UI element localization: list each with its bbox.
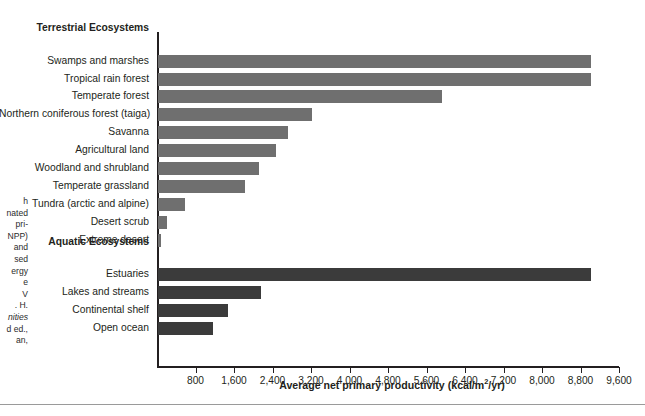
x-axis-tick — [542, 367, 543, 373]
bar — [158, 234, 161, 247]
bar — [158, 73, 591, 86]
x-axis-title: Average net primary productivity (kcal/m… — [157, 377, 627, 391]
bar — [158, 144, 276, 157]
bar — [158, 180, 245, 193]
plot-area: 8001,6002,4003,2004,0004,8005,6006,4007,… — [157, 16, 645, 350]
footer-divider — [0, 404, 645, 405]
bar — [158, 286, 261, 299]
bar — [158, 126, 288, 139]
x-axis-tick — [196, 367, 197, 373]
axis-title-superscript: 2 — [484, 377, 488, 386]
x-axis-tick — [465, 367, 466, 373]
x-axis-tick — [619, 367, 620, 373]
group-heading: Aquatic Ecosystems — [0, 236, 149, 248]
category-label: Savanna — [0, 126, 149, 138]
category-label: Tropical rain forest — [0, 73, 149, 85]
category-label: Agricultural land — [0, 144, 149, 156]
category-label: Temperate grassland — [0, 180, 149, 192]
group-heading: Terrestrial Ecosystems — [0, 22, 149, 34]
x-axis-tick — [504, 367, 505, 373]
x-axis-tick — [581, 367, 582, 373]
category-label-column: Terrestrial EcosystemsSwamps and marshes… — [0, 0, 153, 352]
x-axis-tick — [273, 367, 274, 373]
bar — [158, 216, 167, 229]
category-label: Swamps and marshes — [0, 55, 149, 67]
category-label: Continental shelf — [0, 304, 149, 316]
bar — [158, 55, 591, 68]
category-label: Woodland and shrubland — [0, 162, 149, 174]
category-label: Temperate forest — [0, 90, 149, 102]
bar — [158, 322, 213, 335]
x-axis-tick — [388, 367, 389, 373]
bar — [158, 162, 259, 175]
x-axis-tick — [311, 367, 312, 373]
x-axis-tick — [427, 367, 428, 373]
bar — [158, 108, 312, 121]
x-axis-tick — [350, 367, 351, 373]
bar — [158, 90, 442, 103]
bar — [158, 304, 228, 317]
figure-root: hnatedpri-NPP)andsedergyeV. H.nitiesd ed… — [0, 0, 645, 416]
category-label: Tundra (arctic and alpine) — [0, 198, 149, 210]
bar — [158, 268, 591, 281]
category-label: Lakes and streams — [0, 286, 149, 298]
category-label: Open ocean — [0, 322, 149, 334]
bar — [158, 198, 185, 211]
category-label: Desert scrub — [0, 216, 149, 228]
category-label: Estuaries — [0, 268, 149, 280]
x-axis-tick — [234, 367, 235, 373]
category-label: Northern coniferous forest (taiga) — [0, 108, 149, 120]
